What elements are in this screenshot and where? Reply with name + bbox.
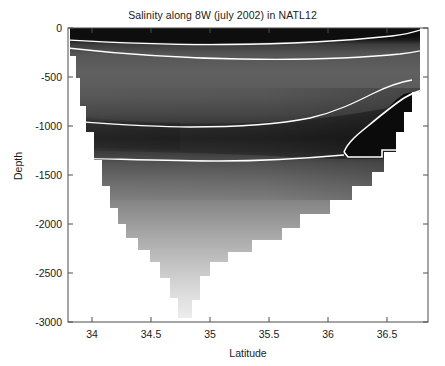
salinity-section-plot: [0, 0, 445, 366]
salinity-section-figure: Salinity along 8W (july 2002) in NATL12 …: [0, 0, 445, 366]
